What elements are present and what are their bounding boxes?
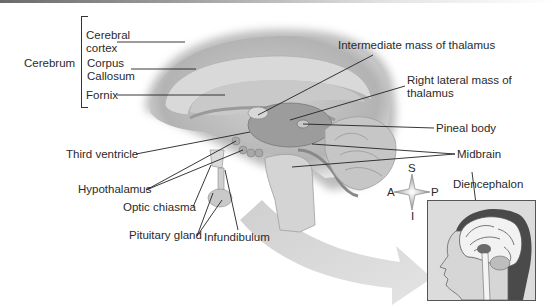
- compass-superior: S: [408, 162, 416, 175]
- intermediate-mass-region: [248, 107, 268, 119]
- label-corpus-callosum-line1: Corpus: [87, 57, 124, 70]
- label-corpus-callosum-line2: Callosum: [87, 70, 135, 83]
- label-third-ventricle: Third ventricle: [66, 148, 138, 161]
- compass-anterior: A: [387, 186, 395, 199]
- infundibulum-region: [218, 168, 224, 190]
- compass-posterior: P: [431, 186, 439, 199]
- head-inset-diagram: [427, 200, 536, 301]
- head-profile-illustration: [428, 201, 535, 300]
- label-cerebral-cortex-line2: cortex: [86, 42, 117, 55]
- label-right-lateral-mass-line1: Right lateral mass of: [407, 74, 512, 87]
- label-right-lateral-mass-line2: thalamus: [407, 87, 454, 100]
- label-cerebral-cortex-line1: Cerebral: [86, 29, 130, 42]
- label-pituitary-gland: Pituitary gland: [129, 229, 202, 242]
- orientation-compass-icon: [394, 174, 430, 210]
- label-midbrain: Midbrain: [457, 148, 501, 161]
- label-cerebrum: Cerebrum: [24, 57, 75, 70]
- label-diencephalon: Diencephalon: [453, 178, 523, 191]
- compass-inferior: I: [411, 210, 414, 223]
- arrow-to-inset: [240, 200, 432, 305]
- label-fornix: Fornix: [86, 89, 118, 102]
- label-optic-chiasma: Optic chiasma: [123, 201, 196, 214]
- label-pineal-body: Pineal body: [436, 122, 496, 135]
- label-hypothalamus: Hypothalamus: [78, 183, 152, 196]
- label-intermediate-mass: Intermediate mass of thalamus: [338, 39, 495, 52]
- label-infundibulum: Infundibulum: [204, 231, 270, 244]
